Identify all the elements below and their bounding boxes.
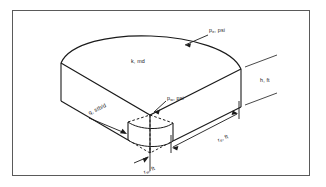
dimension-re [171, 101, 239, 153]
top-face-radii [61, 63, 241, 115]
figure-canvas: pe, psi k, md h, ft pw, psi q, stb/d re,… [0, 0, 326, 187]
label-permeability: k, md [131, 59, 145, 64]
right-face-bottom-edge [173, 107, 241, 141]
pw-arrowhead-icon [154, 110, 160, 115]
q-arrow-shaft [89, 118, 125, 133]
block-vertical-edges [61, 63, 241, 153]
leader-pe [185, 35, 208, 48]
label-thickness: h, ft [260, 78, 270, 83]
figure-frame-border: pe, psi k, md h, ft pw, psi q, stb/d re,… [12, 10, 310, 176]
re-dimension-line [173, 114, 237, 147]
pe-subscript: e [212, 29, 214, 34]
pw-unit: , psi [173, 95, 184, 101]
block-bottom-edges [61, 101, 241, 141]
h-lower-extension-line [245, 93, 277, 105]
top-face-outer-arc [61, 36, 241, 69]
h-upper-extension-line [245, 55, 277, 67]
flow-arrow-q [89, 118, 127, 134]
pw-subscript: w [170, 97, 173, 102]
label-wellbore-pressure: pw, psi [167, 96, 184, 101]
block-top-face [61, 36, 241, 115]
pe-unit: , psi [215, 27, 226, 33]
reservoir-block-drawing [13, 11, 309, 175]
label-external-pressure: pe, psi [209, 28, 225, 33]
